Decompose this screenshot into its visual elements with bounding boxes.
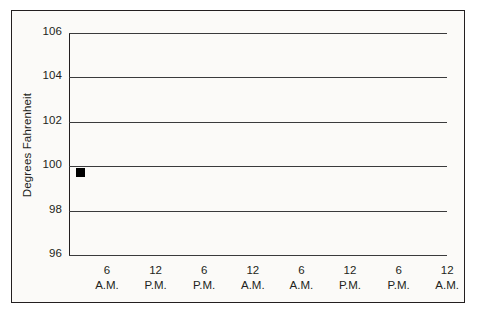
- y-tick-label-104: 104: [28, 70, 62, 82]
- y-tick-label-102: 102: [28, 115, 62, 127]
- plot-area: [69, 33, 447, 255]
- gridline-106: [69, 33, 447, 34]
- y-tick-label-100: 100: [28, 159, 62, 171]
- y-tick-label-106: 106: [28, 26, 62, 38]
- gridline-102: [69, 122, 447, 123]
- x-tick-label-7: 12 A.M.: [417, 263, 477, 293]
- gridline-104: [69, 77, 447, 78]
- y-tick-label-96: 96: [28, 248, 62, 260]
- data-point-marker[interactable]: [76, 168, 85, 177]
- chart-screenshot: Degrees Fahrenheit 106 104 102 100 98 96: [0, 0, 480, 314]
- temperature-chart: Degrees Fahrenheit 106 104 102 100 98 96: [0, 0, 480, 314]
- gridline-98: [69, 211, 447, 212]
- x-tick-hour-7: 12: [417, 263, 477, 278]
- y-tick-label-98: 98: [28, 204, 62, 216]
- y-axis-title: Degrees Fahrenheit: [21, 93, 33, 197]
- gridline-100: [69, 166, 447, 167]
- gridline-96: [69, 255, 447, 256]
- x-tick-meridiem-7: A.M.: [417, 278, 477, 293]
